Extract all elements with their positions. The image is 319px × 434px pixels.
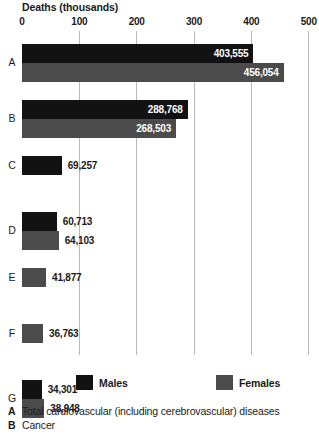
legend-swatch-females-icon	[216, 375, 233, 390]
key-text: Cancer	[22, 419, 55, 431]
bar-value-A-males: 403,555	[214, 44, 249, 63]
x-tick-label-100: 100	[71, 16, 87, 27]
key-row-B: BCancer	[8, 419, 319, 433]
bar-group-E: E41,877	[0, 268, 319, 287]
bar-row: 36,763	[0, 324, 319, 343]
legend-swatch-males-icon	[76, 375, 93, 390]
bar-value-D-males: 60,713	[63, 212, 92, 231]
bar-value-A-females: 456,054	[244, 63, 279, 82]
plot-area: A403,555456,054B288,768268,503C69,257D60…	[0, 31, 319, 355]
bar-group-C: C69,257	[0, 156, 319, 175]
chart-title: Deaths (thousands)	[22, 1, 118, 13]
legend-label: Females	[239, 377, 280, 389]
x-tick-label-500: 500	[301, 16, 317, 27]
x-tick-label-300: 300	[186, 16, 202, 27]
bar-value-E-females: 41,877	[52, 268, 81, 287]
bar-row: 69,257	[0, 156, 319, 175]
bar-D-males[interactable]	[22, 212, 57, 231]
bar-group-B: B288,768268,503	[0, 100, 319, 138]
legend-item-females[interactable]: Females	[216, 375, 280, 390]
x-axis-tick-labels: 0100200300400500	[0, 16, 319, 29]
bar-row: 64,103	[0, 231, 319, 250]
category-key: ATotal cardiovascular (including cerebro…	[8, 405, 319, 433]
legend-label: Males	[99, 377, 128, 389]
bar-group-F: F36,763	[0, 324, 319, 343]
x-tick-label-200: 200	[129, 16, 145, 27]
legend-item-males[interactable]: Males	[76, 375, 128, 390]
bar-D-females[interactable]	[22, 231, 59, 250]
bar-value-B-males: 288,768	[148, 100, 183, 119]
bar-row: 41,877	[0, 268, 319, 287]
bar-E-females[interactable]	[22, 268, 46, 287]
bar-value-C-males: 69,257	[68, 156, 97, 175]
bar-value-B-females: 268,503	[136, 119, 171, 138]
bar-chart: Deaths (thousands) 0100200300400500 A403…	[0, 0, 319, 434]
key-text: Total cardiovascular (including cerebrov…	[22, 405, 280, 417]
bar-F-females[interactable]	[22, 324, 43, 343]
key-letter: B	[8, 419, 22, 431]
bar-row: 403,555	[0, 44, 319, 63]
bar-row: 268,503	[0, 119, 319, 138]
bar-row: 456,054	[0, 63, 319, 82]
bar-row: 60,713	[0, 212, 319, 231]
bar-group-D: D60,71364,103	[0, 212, 319, 250]
bar-value-F-females: 36,763	[49, 324, 78, 343]
bar-group-A: A403,555456,054	[0, 44, 319, 82]
chart-legend: MalesFemales	[0, 375, 319, 395]
key-letter: A	[8, 405, 22, 417]
x-tick-label-0: 0	[19, 16, 24, 27]
bar-value-D-females: 64,103	[65, 231, 94, 250]
x-tick-label-400: 400	[243, 16, 259, 27]
bar-row: 288,768	[0, 100, 319, 119]
key-row-A: ATotal cardiovascular (including cerebro…	[8, 405, 319, 419]
bar-C-males[interactable]	[22, 156, 62, 175]
